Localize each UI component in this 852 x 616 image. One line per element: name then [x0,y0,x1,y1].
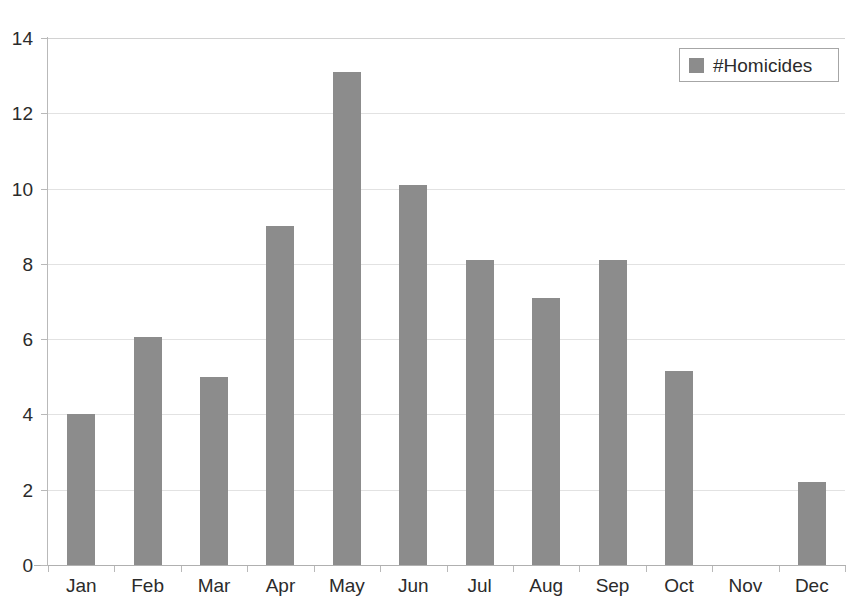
x-axis-tick [114,566,115,572]
x-axis-tick [579,566,580,572]
chart-legend: #Homicides [679,48,839,82]
x-axis-tick [48,566,49,572]
x-axis-tick [447,566,448,572]
x-axis-tick [314,566,315,572]
x-axis-tick [712,566,713,572]
bar-chart: #Homicides 02468101214JanFebMarAprMayJun… [0,0,852,616]
bar-apr [266,226,294,565]
y-axis-tick [41,490,48,491]
bar-dec [798,482,826,565]
homicides-swatch-icon [689,58,704,73]
y-axis-tick [41,189,48,190]
gridline [48,113,845,114]
y-axis-tick [41,38,48,39]
x-axis-line [34,565,846,566]
bar-aug [532,298,560,565]
x-axis-tick-label-apr: Apr [247,576,313,595]
gridline [48,339,845,340]
y-axis-tick-label: 4 [0,405,33,424]
legend-item-label: #Homicides [713,56,812,75]
y-axis-tick [41,339,48,340]
x-axis-tick-label-oct: Oct [646,576,712,595]
bar-may [333,72,361,565]
gridline [48,490,845,491]
bar-jun [399,185,427,565]
y-axis-tick-label: 12 [0,104,33,123]
x-axis-tick [380,566,381,572]
y-axis-tick [41,565,48,566]
bar-jan [67,414,95,565]
plot-area [48,38,845,565]
x-axis-tick [646,566,647,572]
x-axis-tick-label-mar: Mar [181,576,247,595]
y-axis-tick-label: 2 [0,481,33,500]
x-axis-tick-label-jun: Jun [380,576,446,595]
x-axis-tick-label-nov: Nov [712,576,778,595]
x-axis-tick-label-feb: Feb [114,576,180,595]
y-axis-tick [41,414,48,415]
gridline [48,189,845,190]
x-axis-tick-label-dec: Dec [779,576,845,595]
x-axis-tick-label-may: May [314,576,380,595]
gridline [48,264,845,265]
x-axis-tick-label-jul: Jul [447,576,513,595]
y-axis-tick [41,264,48,265]
bar-mar [200,377,228,565]
y-axis-tick-label: 8 [0,255,33,274]
y-axis-tick-label: 0 [0,556,33,575]
gridline [48,414,845,415]
y-axis-tick-label: 6 [0,330,33,349]
chart-title [0,0,852,6]
bar-oct [665,371,693,565]
x-axis-tick-label-jan: Jan [48,576,114,595]
bar-feb [134,337,162,565]
y-axis-tick [41,113,48,114]
x-axis-tick-label-sep: Sep [579,576,645,595]
x-axis-tick [513,566,514,572]
x-axis-tick [247,566,248,572]
bar-jul [466,260,494,565]
x-axis-tick-label-aug: Aug [513,576,579,595]
y-axis-tick-label: 10 [0,180,33,199]
bar-sep [599,260,627,565]
x-axis-tick [779,566,780,572]
y-axis-tick-label: 14 [0,29,33,48]
x-axis-tick [845,566,846,572]
gridline [48,38,845,39]
x-axis-tick [181,566,182,572]
